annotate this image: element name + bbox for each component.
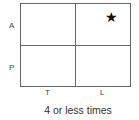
star-icon: ★ — [105, 10, 118, 24]
column-label-l: L — [100, 88, 104, 97]
quadrant-grid: ★ — [20, 3, 131, 87]
horizontal-divider — [21, 45, 130, 46]
row-label-a: A — [9, 21, 14, 30]
diagram-caption: 4 or less times — [0, 104, 139, 116]
row-label-p: P — [9, 63, 14, 72]
column-label-t: T — [45, 88, 50, 97]
